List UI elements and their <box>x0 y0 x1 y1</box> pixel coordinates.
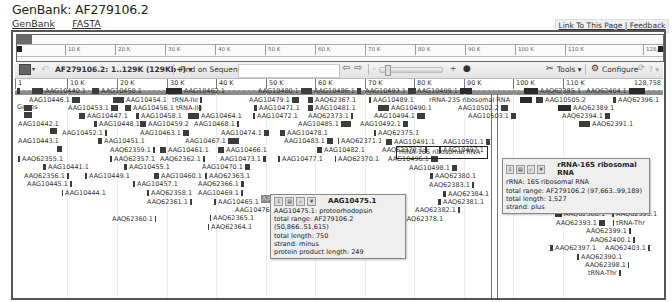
gene-feature[interactable]: AAQ62389.1 <box>558 104 614 112</box>
gene-feature[interactable]: AAG10470.1 <box>202 163 250 171</box>
pin-icon[interactable]: ⇩ <box>274 197 283 206</box>
gene-feature[interactable]: AAG10449.1 <box>85 172 130 180</box>
gene-feature[interactable]: AAG10463.1 <box>140 129 189 137</box>
gene-feature[interactable]: AAG10464.1 <box>188 112 242 120</box>
gene-feature[interactable]: tRNA-Ile <box>172 96 202 104</box>
zoom-slider-knob[interactable] <box>385 65 391 76</box>
gene-feature[interactable]: AAG10447.1 <box>79 112 128 120</box>
gene-feature[interactable]: AAG10494.1 <box>374 112 425 120</box>
gene-feature[interactable]: AAQ62373.1 <box>308 112 353 120</box>
scroll-left-icon[interactable] <box>17 46 22 52</box>
gene-feature[interactable]: AAQ62399.1 <box>586 227 631 235</box>
collapse-icon[interactable]: ¥ <box>307 197 316 206</box>
color-picker-button[interactable] <box>19 64 31 75</box>
gene-feature[interactable] <box>199 104 201 112</box>
gene-feature[interactable]: AAQ62383.1 <box>429 181 474 189</box>
gene-feature[interactable] <box>520 96 532 104</box>
zoom-out-icon[interactable]: - <box>373 64 376 74</box>
gene-feature[interactable]: AAG10462.1 <box>166 87 225 95</box>
gene-feature[interactable]: AAQ62375.1 <box>374 129 419 137</box>
fasta-link[interactable]: FASTA <box>72 18 101 29</box>
gene-feature[interactable]: AAQ62358.1 <box>147 189 192 197</box>
scroll-right-icon[interactable] <box>658 46 663 52</box>
gene-feature[interactable]: AAG10445.1 <box>27 180 72 188</box>
gene-feature[interactable]: AAG10489.1 <box>369 96 414 104</box>
gene-feature[interactable]: AAQ62403.1 <box>605 244 650 252</box>
gene-feature[interactable]: AAQ62370.1 <box>335 155 379 163</box>
gene-feature[interactable]: AAG10501.1 <box>443 138 490 146</box>
pan-left-icon[interactable]: ⇦ <box>342 63 350 73</box>
overview-selection[interactable] <box>17 35 32 44</box>
gene-feature[interactable]: AAG10465.1 <box>214 198 259 206</box>
gene-feature[interactable]: AAG10491.1 <box>386 138 435 146</box>
gene-feature[interactable]: AAG10446.1 <box>29 96 80 104</box>
gene-feature[interactable]: AAQ62382.1 <box>415 206 460 214</box>
gene-feature[interactable]: AAG10453.1 <box>68 104 118 112</box>
gene-feature[interactable] <box>57 145 62 153</box>
gene-feature[interactable]: AAQ62365.1 <box>210 214 254 222</box>
gene-feature[interactable]: AAG10473.1 <box>220 155 266 163</box>
gene-feature[interactable]: AAG10503.1 <box>468 112 516 120</box>
gene-feature[interactable]: AAQ62384.1 <box>443 190 489 198</box>
gene-feature[interactable]: AAQ62398.1 <box>585 261 629 269</box>
gene-feature[interactable]: AAG10492.1 <box>360 120 408 128</box>
gene-feature[interactable]: AAQ62367.1 <box>308 96 356 104</box>
gene-feature[interactable]: AAG10440.1 <box>32 87 86 95</box>
gene-feature[interactable] <box>50 127 57 135</box>
gene-feature[interactable]: AAQ62361.1 <box>147 198 192 206</box>
gene-feature[interactable]: AAG10448.1 <box>94 120 140 128</box>
gene-feature[interactable]: AAG10461.1 <box>160 146 209 154</box>
configure-button[interactable]: Configure <box>602 65 638 75</box>
gene-feature[interactable]: AAG10493.1 <box>365 87 416 95</box>
help-menu-button[interactable]: ? ▾ <box>649 65 659 75</box>
gene-feature[interactable]: AAG10480.1 <box>258 87 312 95</box>
gene-feature[interactable]: AAQ62360.1 <box>112 215 156 223</box>
zoom-in-icon[interactable]: + <box>450 64 456 74</box>
gene-feature[interactable]: AAQ62357.1 <box>110 155 155 163</box>
gene-feature[interactable]: AAG10454.1 <box>113 96 167 104</box>
gene-feature[interactable]: AAG10443.1 <box>18 137 59 145</box>
overview-panel[interactable]: 10 K20 K30 K40 K50 K60 K70 K80 K90 K100 … <box>16 34 664 62</box>
zoom-to-sequence-icon[interactable]: ● <box>463 63 471 73</box>
gene-feature[interactable]: AAG10472.1 <box>253 112 298 120</box>
gene-feature[interactable]: AAQ62364.1 <box>208 223 252 231</box>
gene-feature[interactable]: AAG10490.1 <box>378 104 432 112</box>
search-icon[interactable]: ⌕ <box>527 165 535 174</box>
search-icon[interactable]: ⌕ <box>296 197 305 206</box>
gene-feature[interactable]: AAG10451.1 <box>98 137 145 145</box>
genbank-link[interactable]: GenBank <box>12 18 55 29</box>
gene-feature[interactable] <box>24 111 32 119</box>
gene-feature[interactable]: AAQ62371.1 <box>338 137 382 145</box>
pan-right-icon[interactable]: ⇨ <box>354 63 362 73</box>
gene-feature[interactable]: AAQ62381.1 <box>438 198 484 206</box>
gene-feature[interactable]: AAG10482.1 <box>317 146 365 154</box>
gene-feature[interactable]: AAG10441.1 <box>43 163 89 171</box>
gene-feature[interactable]: AAG10486.1 <box>314 87 361 95</box>
gene-feature[interactable]: AAG10452.1 <box>62 129 107 137</box>
gene-feature[interactable]: AAG10502.2 <box>458 104 508 112</box>
gene-feature[interactable]: AAQ62385.1 <box>524 87 581 95</box>
reload-icon[interactable]: ⟳ <box>638 63 645 73</box>
gene-feature[interactable]: AAG10481.1 <box>308 104 356 112</box>
zoom-slider[interactable] <box>379 67 443 73</box>
gene-feature[interactable]: AAG10483.1 <box>284 137 333 145</box>
undo-icon[interactable]: ↶ <box>41 64 49 74</box>
dropdown-caret-icon[interactable]: ▾ <box>32 64 35 74</box>
gene-feature[interactable]: AAQ62397.1 <box>550 244 596 252</box>
gene-feature[interactable]: AAQ62400.1 <box>590 236 635 244</box>
gene-feature[interactable]: AAG10457.1 <box>133 180 178 188</box>
gene-feature[interactable]: rRNA-23S ribosomal RNA <box>429 96 510 104</box>
gene-feature[interactable]: AAQ62359.1 <box>110 146 155 154</box>
gene-feature[interactable] <box>17 87 20 95</box>
gene-feature[interactable]: AAG10499.1 <box>417 87 472 95</box>
gene-feature[interactable]: AAQ62355.1 <box>18 155 63 163</box>
gene-feature[interactable]: AAQ62390.1 <box>577 253 622 261</box>
print-icon[interactable]: ▤ <box>285 197 294 206</box>
sequence-range-select[interactable]: AF279106.2: 1..129K (129Kb+) ▾ <box>55 65 192 75</box>
tools-menu-button[interactable]: Tools ▾ <box>557 65 582 75</box>
print-icon[interactable]: ▤ <box>516 165 524 174</box>
gene-feature[interactable]: AAG10450.1 <box>92 87 142 95</box>
gene-feature[interactable]: AAQ62394.1 <box>562 112 610 120</box>
gene-feature[interactable]: AAG10455.1 <box>124 163 170 171</box>
gene-feature[interactable]: AAG10485.1 <box>298 120 351 128</box>
